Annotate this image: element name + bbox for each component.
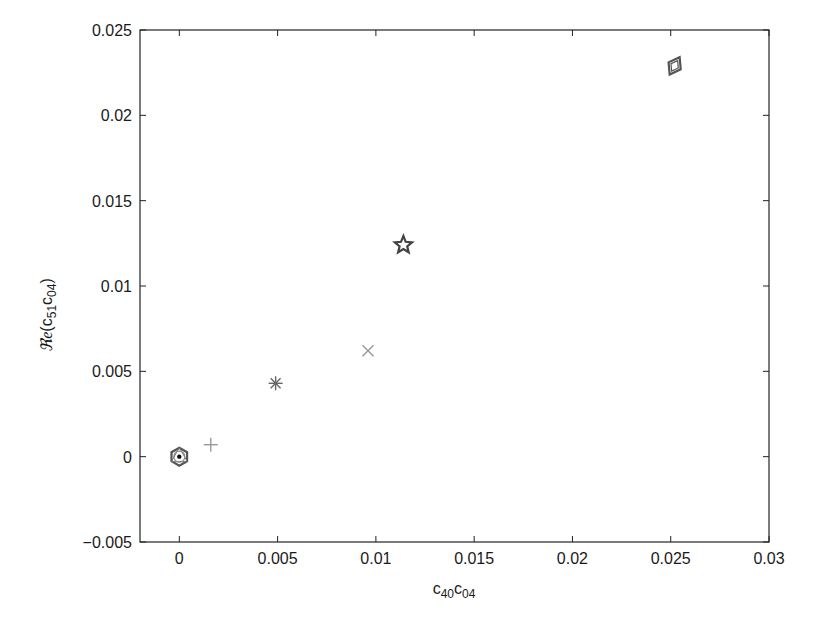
- y-tick-label: 0.02: [101, 107, 132, 124]
- x-tick-label: 0: [175, 550, 184, 567]
- plot-frame: [140, 30, 769, 542]
- axis-ticks: [140, 30, 769, 542]
- y-tick-label: 0.01: [101, 278, 132, 295]
- y-tick-label: 0.015: [92, 193, 132, 210]
- x-axis-label: c40c04: [433, 580, 476, 601]
- y-tick-label: 0.025: [92, 22, 132, 39]
- y-tick-labels: −0.00500.0050.010.0150.020.025: [83, 22, 132, 551]
- hexagon-marker-icon: [171, 448, 187, 466]
- y-tick-label: 0: [123, 449, 132, 466]
- diamond-marker-icon: [664, 54, 686, 78]
- y-tick-label: −0.005: [83, 534, 132, 551]
- y-axis-label: ℜe(c51c04): [38, 278, 59, 351]
- x-marker-icon: [363, 345, 374, 356]
- star-marker-icon: [395, 236, 412, 252]
- x-tick-labels: 00.0050.010.0150.020.0250.03: [175, 550, 785, 567]
- x-tick-label: 0.015: [454, 550, 494, 567]
- x-tick-label: 0.01: [360, 550, 391, 567]
- asterisk-marker-icon: [269, 376, 283, 390]
- x-tick-label: 0.02: [557, 550, 588, 567]
- x-tick-label: 0.005: [258, 550, 298, 567]
- scatter-chart: 00.0050.010.0150.020.0250.03 −0.00500.00…: [0, 0, 816, 635]
- x-tick-label: 0.03: [753, 550, 784, 567]
- plus-marker-icon: [204, 438, 218, 452]
- y-tick-label: 0.005: [92, 363, 132, 380]
- data-markers: [171, 54, 685, 466]
- x-tick-label: 0.025: [651, 550, 691, 567]
